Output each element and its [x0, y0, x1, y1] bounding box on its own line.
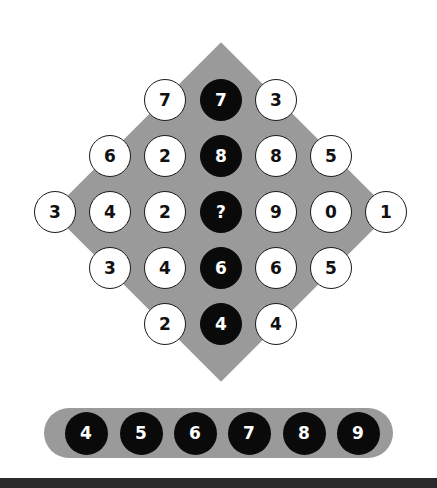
cell-r4-c0: 2 [144, 303, 186, 345]
answer-option-8[interactable]: 8 [283, 412, 326, 455]
cell-r3-c0: 3 [89, 247, 131, 289]
cell-r2-c5: 0 [310, 191, 352, 233]
cell-r2-c0: 3 [34, 191, 76, 233]
answer-option-4[interactable]: 4 [65, 412, 108, 455]
cell-r1-c2: 8 [200, 135, 242, 177]
cell-r2-c4: 9 [255, 191, 297, 233]
answer-option-6[interactable]: 6 [174, 412, 217, 455]
cell-r1-c1: 2 [144, 135, 186, 177]
cell-r0-c2: 3 [255, 79, 297, 121]
cell-r1-c3: 8 [255, 135, 297, 177]
cell-r4-c2: 4 [255, 303, 297, 345]
cell-r1-c0: 6 [89, 135, 131, 177]
unknown-cell: ? [200, 191, 242, 233]
bottom-edge-strip [0, 478, 437, 488]
answer-option-9[interactable]: 9 [337, 412, 380, 455]
cell-r0-c0: 7 [144, 79, 186, 121]
cell-r3-c3: 6 [255, 247, 297, 289]
cell-r4-c1: 4 [200, 303, 242, 345]
cell-r2-c2: 2 [144, 191, 186, 233]
cell-r3-c4: 5 [310, 247, 352, 289]
cell-r3-c1: 4 [144, 247, 186, 289]
cell-r0-c1: 7 [200, 79, 242, 121]
cell-r3-c2: 6 [200, 247, 242, 289]
answer-option-5[interactable]: 5 [120, 412, 163, 455]
cell-r1-c4: 5 [310, 135, 352, 177]
cell-r2-c6: 1 [365, 191, 407, 233]
cell-r2-c1: 4 [89, 191, 131, 233]
answer-option-7[interactable]: 7 [228, 412, 271, 455]
